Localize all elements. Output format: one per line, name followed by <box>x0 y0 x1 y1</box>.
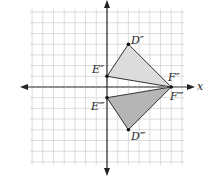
x-axis-label: x <box>197 80 204 93</box>
arrow-left-icon <box>20 84 28 90</box>
y-axis <box>104 0 110 176</box>
arrow-down-icon <box>104 168 110 176</box>
point-e-double-prime <box>105 75 109 79</box>
point-e-triple-prime <box>105 96 109 100</box>
label-f-triple-prime: F‴ <box>169 90 184 103</box>
point-d-triple-prime <box>127 128 131 132</box>
label-f-double-prime: F″ <box>167 71 181 84</box>
point-f-double-prime <box>169 85 173 89</box>
coordinate-plane: D″ E″ F″ E‴ D‴ F‴ x <box>0 0 209 190</box>
point-d-double-prime <box>127 42 131 46</box>
arrow-right-icon <box>187 84 195 90</box>
label-d-triple-prime: D‴ <box>130 130 146 143</box>
arrow-up-icon <box>104 0 110 8</box>
label-e-double-prime: E″ <box>91 63 105 76</box>
label-e-triple-prime: E‴ <box>90 100 105 113</box>
label-d-double-prime: D″ <box>130 34 145 47</box>
